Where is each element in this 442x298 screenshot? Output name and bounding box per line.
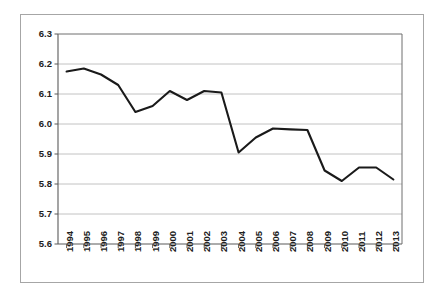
x-axis-tick-label: 2007 xyxy=(287,231,298,252)
x-axis-tick-label: 1995 xyxy=(81,230,92,252)
x-axis-tick-label: 2011 xyxy=(356,231,367,252)
x-axis-tick-label: 2006 xyxy=(270,231,281,252)
x-axis-tick-label: 2004 xyxy=(236,230,247,252)
x-axis-tick-label: 2003 xyxy=(218,231,229,252)
x-axis-tick-label: 2008 xyxy=(304,231,315,252)
x-axis-tick-label: 1997 xyxy=(115,231,126,252)
y-axis-tick-label: 5.6 xyxy=(39,238,52,249)
x-axis-tick-label: 2009 xyxy=(322,231,333,252)
x-axis-tick-label: 2010 xyxy=(339,231,350,252)
y-axis-tick-label: 6.1 xyxy=(39,88,53,99)
x-axis-tick-label: 2005 xyxy=(253,230,264,252)
x-axis-tick-label: 2013 xyxy=(390,231,401,252)
x-axis-tick-label: 1996 xyxy=(98,231,109,252)
y-axis-tick-label: 5.8 xyxy=(39,178,52,189)
y-axis-tick-label: 6.2 xyxy=(39,58,52,69)
line-chart: 6.36.26.16.05.95.85.75.6 199419951996199… xyxy=(21,15,423,282)
x-axis-tick-label: 2002 xyxy=(201,231,212,252)
x-axis-tick-label: 2001 xyxy=(184,230,195,252)
x-axis-tick-label: 1998 xyxy=(132,231,143,252)
x-axis-tick-label: 1999 xyxy=(150,231,161,252)
x-axis-tick-label: 2000 xyxy=(167,231,178,252)
y-axis-tick-label: 6.0 xyxy=(39,118,52,129)
x-axis-tick-label: 2012 xyxy=(373,231,384,252)
chart-frame: 6.36.26.16.05.95.85.75.6 199419951996199… xyxy=(20,14,424,283)
y-axis-tick-label: 6.3 xyxy=(39,28,52,39)
y-axis-tick-label: 5.9 xyxy=(39,148,52,159)
x-axis-tick-label: 1994 xyxy=(64,230,75,252)
y-axis-tick-label: 5.7 xyxy=(39,208,52,219)
